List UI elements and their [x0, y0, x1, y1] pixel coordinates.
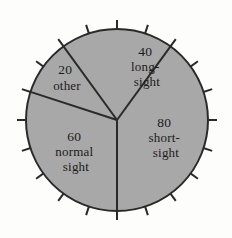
pie-chart-figure: 40 long- sight 80 short- sight 60 normal… [0, 0, 232, 238]
pie-chart-svg: 40 long- sight 80 short- sight 60 normal… [0, 0, 232, 238]
